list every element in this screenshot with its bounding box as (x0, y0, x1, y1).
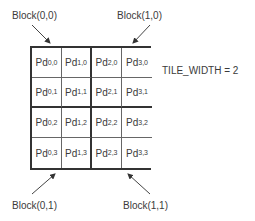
grid-cell: Pd1,3 (62, 138, 92, 168)
grid-cell: Pd1,1 (62, 78, 92, 108)
arrow-block-0-1 (32, 174, 55, 194)
grid-cell: Pd3,0 (122, 48, 152, 78)
grid-cell: Pd2,0 (92, 48, 122, 78)
grid-cell: Pd1,2 (62, 108, 92, 138)
grid-cell: Pd1,0 (62, 48, 92, 78)
grid-cell: Pd3,3 (122, 138, 152, 168)
grid-cell: Pd0,2 (32, 108, 62, 138)
grid-cell: Pd2,2 (92, 108, 122, 138)
grid-cell: Pd0,1 (32, 78, 62, 108)
arrow-block-1-1 (128, 174, 150, 194)
grid-cell: Pd0,3 (32, 138, 62, 168)
arrow-block-0-0 (32, 25, 50, 43)
tile-grid: Pd0,0 Pd1,0 Pd2,0 Pd3,0 Pd0,1 Pd1,1 Pd2,… (30, 46, 151, 170)
arrow-block-1-0 (133, 25, 150, 43)
grid-cell: Pd0,0 (32, 48, 62, 78)
grid-cell: Pd2,3 (92, 138, 122, 168)
grid-cell: Pd3,1 (122, 78, 152, 108)
grid-cell: Pd3,2 (122, 108, 152, 138)
grid-cell: Pd2,1 (92, 78, 122, 108)
